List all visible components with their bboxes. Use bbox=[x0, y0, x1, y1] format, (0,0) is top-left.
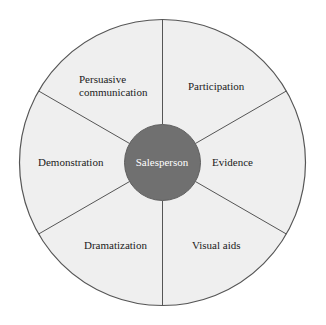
sector-label-dramatization: Dramatization bbox=[84, 239, 147, 252]
sector-label-demonstration: Demonstration bbox=[38, 156, 103, 169]
sector-label-participation: Participation bbox=[188, 80, 244, 93]
sector-label-visual-aids: Visual aids bbox=[192, 239, 241, 252]
hub-label-salesperson: Salesperson bbox=[112, 156, 212, 169]
sector-label-persuasive-communication: Persuasive communication bbox=[79, 73, 147, 99]
radial-wheel-diagram: Persuasive communication Participation D… bbox=[0, 0, 326, 325]
sector-label-evidence: Evidence bbox=[212, 156, 253, 169]
